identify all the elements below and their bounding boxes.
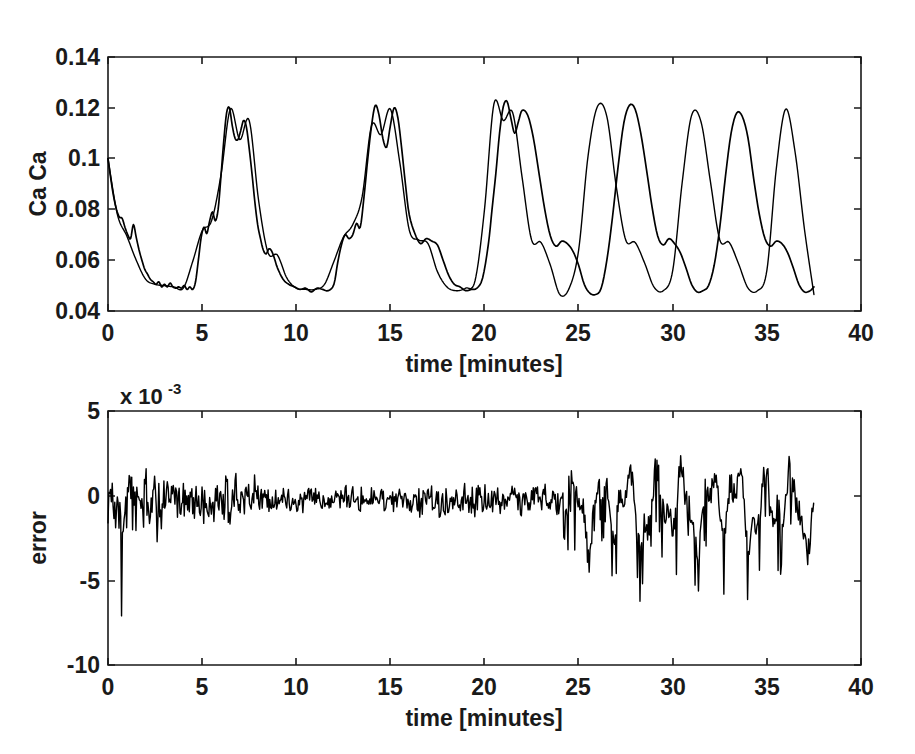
top-plot: 0.04 0.06 0.08 0.1 0.12 0.14 0 5 10 15 2…: [25, 44, 874, 377]
top-xtick-label-4: 20: [471, 320, 497, 346]
top-ytick-label-2: 0.08: [55, 196, 100, 222]
top-ytick-label-0: 0.04: [55, 298, 100, 324]
top-xtick-label-6: 30: [660, 320, 686, 346]
top-xtick-label-5: 25: [565, 320, 591, 346]
top-ytick-label-1: 0.06: [55, 247, 100, 273]
bottom-xaxis-label: time [minutes]: [405, 705, 562, 731]
top-ytick-label-4: 0.12: [55, 95, 100, 121]
bottom-ytick-label-2: 0: [87, 483, 100, 509]
bottom-plot-yticks: [108, 411, 861, 665]
bottom-xtick-label-7: 35: [754, 674, 780, 700]
bottom-xtick-label-4: 20: [471, 674, 497, 700]
top-ytick-label-3: 0.1: [68, 145, 100, 171]
top-xtick-label-0: 0: [102, 320, 115, 346]
bottom-xtick-label-2: 10: [283, 674, 309, 700]
top-series-measured-line: [108, 101, 814, 295]
figure-container: 0.04 0.06 0.08 0.1 0.12 0.14 0 5 10 15 2…: [0, 0, 915, 754]
top-xtick-label-2: 10: [283, 320, 309, 346]
bottom-xtick-label-0: 0: [102, 674, 115, 700]
bottom-xtick-label-6: 30: [660, 674, 686, 700]
bottom-ytick-label-0: -10: [67, 652, 100, 678]
top-xaxis-label: time [minutes]: [405, 351, 562, 377]
top-xtick-label-3: 15: [377, 320, 403, 346]
bottom-ytick-label-1: -5: [80, 568, 101, 594]
bottom-xtick-label-8: 40: [848, 674, 874, 700]
bottom-ytick-label-3: 5: [87, 398, 100, 424]
bottom-yaxis-multiplier-exponent: -3: [168, 380, 181, 397]
bottom-xtick-label-3: 15: [377, 674, 403, 700]
top-xtick-label-7: 35: [754, 320, 780, 346]
bottom-yaxis-label: error: [25, 511, 51, 565]
bottom-plot-frame: [108, 411, 861, 665]
bottom-series-error-line: [108, 456, 814, 616]
bottom-xtick-label-1: 5: [196, 674, 209, 700]
top-yaxis-label: Ca Ca: [25, 151, 51, 216]
bottom-xtick-label-5: 25: [565, 674, 591, 700]
bottom-plot: x 10 -3: [25, 380, 874, 731]
top-xtick-label-8: 40: [848, 320, 874, 346]
bottom-plot-xticks: [108, 411, 861, 665]
bottom-yaxis-multiplier: x 10: [120, 384, 163, 409]
top-xtick-label-1: 5: [196, 320, 209, 346]
top-ytick-label-5: 0.14: [55, 44, 100, 70]
top-series-model-line: [108, 100, 814, 296]
figure-svg: 0.04 0.06 0.08 0.1 0.12 0.14 0 5 10 15 2…: [0, 0, 915, 754]
